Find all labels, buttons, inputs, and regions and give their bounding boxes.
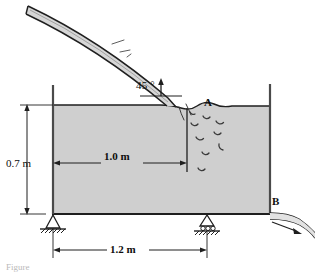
figure-canvas: 45 ° A B 0.7 m 1.0 m 1.2 m Figure	[0, 0, 315, 272]
roller-wheel	[206, 226, 210, 230]
pin-support-triangle	[46, 215, 60, 228]
jet-splash-ticks	[112, 40, 131, 57]
roller-wheel	[201, 226, 205, 230]
angle-arrow-head	[158, 78, 164, 85]
figure-caption: Figure	[6, 262, 30, 272]
outlet-flow-arrow-head	[293, 228, 302, 234]
outlet-flow-arrow-shaft	[272, 222, 296, 231]
dim-arrow-span-left	[53, 247, 60, 252]
inner-width-dimension-label: 1.0 m	[104, 150, 130, 162]
angle-label: 45 °	[136, 79, 155, 91]
point-b-label: B	[272, 195, 279, 207]
dim-arrow-span-right	[200, 247, 207, 252]
water-fill	[53, 102, 270, 214]
span-dimension-label: 1.2 m	[110, 243, 136, 255]
point-a-label: A	[204, 96, 212, 108]
roller-support-triangle	[200, 215, 214, 226]
inlet-jet-lower-edge	[26, 14, 167, 106]
height-dimension-label: 0.7 m	[6, 157, 31, 169]
schematic-svg	[0, 0, 315, 272]
roller-wheel	[211, 226, 215, 230]
